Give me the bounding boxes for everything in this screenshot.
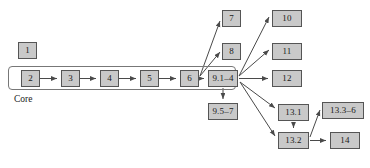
node-label-n131: 13.1 xyxy=(285,108,302,117)
node-label-n14: 14 xyxy=(340,136,349,145)
node-n132[interactable]: 13.2 xyxy=(278,132,309,149)
node-n4[interactable]: 4 xyxy=(100,70,119,87)
node-label-n4: 4 xyxy=(107,74,112,83)
edge-n914-to-n132 xyxy=(240,82,275,136)
node-n14[interactable]: 14 xyxy=(330,132,360,149)
node-label-n132: 13.2 xyxy=(285,136,302,145)
node-n8[interactable]: 8 xyxy=(222,43,241,60)
node-label-n11: 11 xyxy=(282,47,291,56)
node-n1[interactable]: 1 xyxy=(18,42,37,59)
node-n12[interactable]: 12 xyxy=(272,70,302,87)
node-n7[interactable]: 7 xyxy=(222,10,241,27)
node-n11[interactable]: 11 xyxy=(272,43,302,60)
node-n10[interactable]: 10 xyxy=(272,10,302,27)
node-label-n7: 7 xyxy=(229,14,234,23)
node-label-n10: 10 xyxy=(282,14,291,23)
node-label-n8: 8 xyxy=(229,47,234,56)
node-label-n3: 3 xyxy=(68,74,73,83)
node-n131[interactable]: 13.1 xyxy=(278,104,309,121)
edge-n914-to-n11 xyxy=(239,50,269,76)
edge-n914-to-n10 xyxy=(239,17,269,76)
node-label-n12: 12 xyxy=(282,74,291,83)
node-label-n1336: 13.3–6 xyxy=(330,106,356,115)
group-box-core xyxy=(8,66,236,90)
node-n2[interactable]: 2 xyxy=(21,70,40,87)
node-label-n2: 2 xyxy=(28,74,33,83)
node-label-n1: 1 xyxy=(25,46,30,55)
node-n3[interactable]: 3 xyxy=(61,70,80,87)
edge-n914-to-n131 xyxy=(240,82,275,108)
node-n1336[interactable]: 13.3–6 xyxy=(322,102,364,119)
node-n957[interactable]: 9.5–7 xyxy=(208,103,238,120)
node-label-n6: 6 xyxy=(187,74,192,83)
chapter-dependency-diagram: Core 123456789.1–49.5–710111213.113.213.… xyxy=(0,0,370,168)
edge-n132-to-n1336 xyxy=(310,110,320,137)
node-label-n5: 5 xyxy=(147,74,152,83)
node-n6[interactable]: 6 xyxy=(180,70,199,87)
node-label-n914: 9.1–4 xyxy=(212,74,233,83)
node-n914[interactable]: 9.1–4 xyxy=(208,70,238,87)
group-label-core: Core xyxy=(14,94,32,104)
node-label-n957: 9.5–7 xyxy=(212,107,233,116)
node-n5[interactable]: 5 xyxy=(140,70,159,87)
